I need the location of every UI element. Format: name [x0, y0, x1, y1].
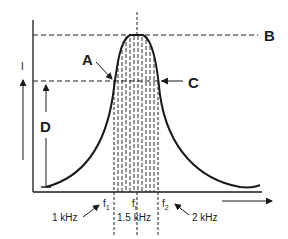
resonance-curve: [46, 35, 260, 187]
callout-b: B: [264, 27, 275, 44]
fr-value: 1.5 kHz: [117, 212, 151, 223]
f2-label: f2: [162, 198, 169, 211]
svg-text:f2: f2: [162, 198, 169, 211]
f1-value-arrow-icon: [83, 205, 99, 217]
svg-text:f1: f1: [103, 198, 110, 211]
f1-value: 1 kHz: [52, 212, 78, 223]
f1-label: f1: [103, 198, 110, 211]
bandwidth-hatching: [118, 36, 154, 192]
f2-value-arrow-icon: [175, 204, 189, 215]
callout-a-arrow-icon: [96, 62, 112, 79]
resonance-diagram: I D A: [0, 0, 288, 239]
callout-c: C: [188, 74, 199, 91]
y-axis-label: I: [21, 61, 24, 72]
callout-d: D: [40, 118, 51, 135]
callout-a: A: [82, 51, 93, 68]
f2-value: 2 kHz: [192, 212, 218, 223]
d-dimension-arrow-icon: [41, 85, 51, 187]
